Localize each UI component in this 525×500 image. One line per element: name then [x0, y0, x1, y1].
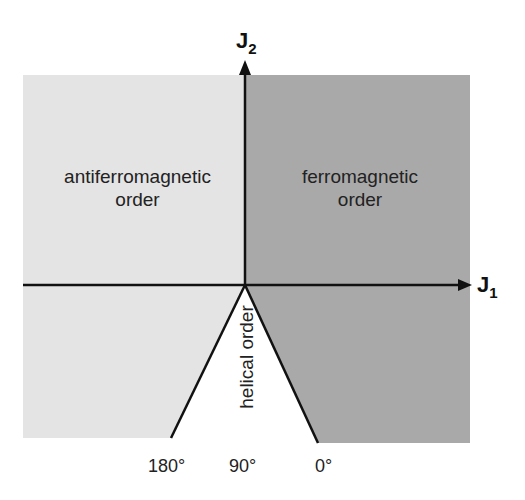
helical-order-label: helical order: [236, 302, 258, 412]
ferromagnetic-region: [245, 75, 470, 443]
ferromagnetic-label: ferromagnetic order: [280, 165, 440, 211]
j2-axis-label: J2: [236, 28, 257, 57]
j1-axis-label: J1: [477, 272, 498, 301]
antiferromagnetic-label: antiferromagnetic order: [50, 165, 225, 211]
angle-0-label: 0°: [315, 456, 332, 477]
phase-diagram-graphic: [0, 0, 525, 500]
angle-90-label: 90°: [229, 456, 256, 477]
angle-180-label: 180°: [148, 456, 185, 477]
j2-arrow-icon: [239, 60, 251, 75]
antiferromagnetic-region: [23, 75, 245, 438]
